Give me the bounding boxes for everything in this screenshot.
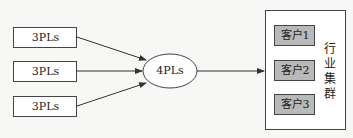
cluster-label-char-3: 集 <box>323 72 337 87</box>
hub-label: 4PLs <box>143 61 197 81</box>
source-label-2: 3PLs <box>14 62 77 82</box>
source-label-1: 3PLs <box>14 28 77 48</box>
customer-label-3: 客户3 <box>275 95 315 115</box>
customer-label-1: 客户1 <box>275 26 315 46</box>
arrow-source-3-to-hub <box>77 83 146 106</box>
customer-label-2: 客户2 <box>275 61 315 81</box>
cluster-label-char-2: 业 <box>323 57 337 72</box>
cluster-label: 行 业 集 群 <box>323 42 337 102</box>
cluster-label-char-1: 行 <box>323 42 337 57</box>
source-label-3: 3PLs <box>14 97 77 117</box>
arrow-source-1-to-hub <box>77 37 146 60</box>
cluster-label-char-4: 群 <box>323 87 337 102</box>
